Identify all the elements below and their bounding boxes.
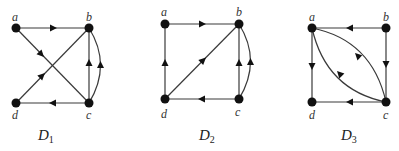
node-label: c bbox=[383, 108, 389, 122]
node-d3-b bbox=[382, 24, 391, 33]
arrow-icon bbox=[346, 99, 353, 106]
arrow-icon bbox=[247, 58, 254, 65]
arrow-icon bbox=[86, 59, 93, 66]
node-d1-c bbox=[85, 99, 94, 108]
arrow-icon bbox=[50, 25, 57, 32]
edge-d3-c-a-lower bbox=[312, 28, 386, 102]
node-label: b bbox=[236, 5, 242, 19]
node-d1-a bbox=[12, 24, 21, 33]
graph-d3: a b c d D3 bbox=[308, 10, 391, 145]
node-label: d bbox=[12, 108, 19, 122]
node-label: c bbox=[86, 108, 92, 122]
node-label: a bbox=[12, 10, 18, 24]
graph-d1: a b c d D1 bbox=[12, 10, 105, 145]
arrow-icon bbox=[198, 96, 205, 103]
arrow-icon bbox=[346, 25, 353, 32]
directed-graphs-figure: a b c d D1 a b c d D2 bbox=[0, 0, 399, 151]
graph-caption: D3 bbox=[340, 127, 357, 145]
arrow-icon bbox=[162, 59, 169, 66]
node-label: d bbox=[161, 107, 168, 121]
graph-caption: D2 bbox=[198, 127, 215, 145]
arrow-icon bbox=[355, 53, 362, 61]
graph-caption: D1 bbox=[37, 127, 54, 145]
arrow-icon bbox=[49, 100, 56, 107]
node-d2-c bbox=[235, 95, 244, 104]
node-d1-b bbox=[85, 24, 94, 33]
node-d2-a bbox=[161, 20, 170, 29]
node-label: b bbox=[383, 10, 389, 24]
arrow-icon bbox=[236, 59, 243, 66]
arrow-icon bbox=[199, 21, 206, 28]
node-d2-b bbox=[235, 20, 244, 29]
arrow-icon bbox=[383, 61, 390, 68]
node-label: a bbox=[161, 5, 167, 19]
node-d3-a bbox=[308, 24, 317, 33]
node-d3-d bbox=[308, 98, 317, 107]
node-label: a bbox=[309, 10, 315, 24]
edge-d3-c-a-upper bbox=[312, 28, 386, 102]
node-label: b bbox=[86, 10, 92, 24]
node-d1-d bbox=[12, 99, 21, 108]
arrow-icon bbox=[97, 61, 104, 68]
node-label: c bbox=[235, 105, 241, 119]
node-label: d bbox=[309, 108, 316, 122]
node-d2-d bbox=[161, 95, 170, 104]
graph-d2: a b c d D2 bbox=[161, 5, 255, 145]
arrow-icon bbox=[309, 63, 316, 70]
node-d3-c bbox=[382, 98, 391, 107]
